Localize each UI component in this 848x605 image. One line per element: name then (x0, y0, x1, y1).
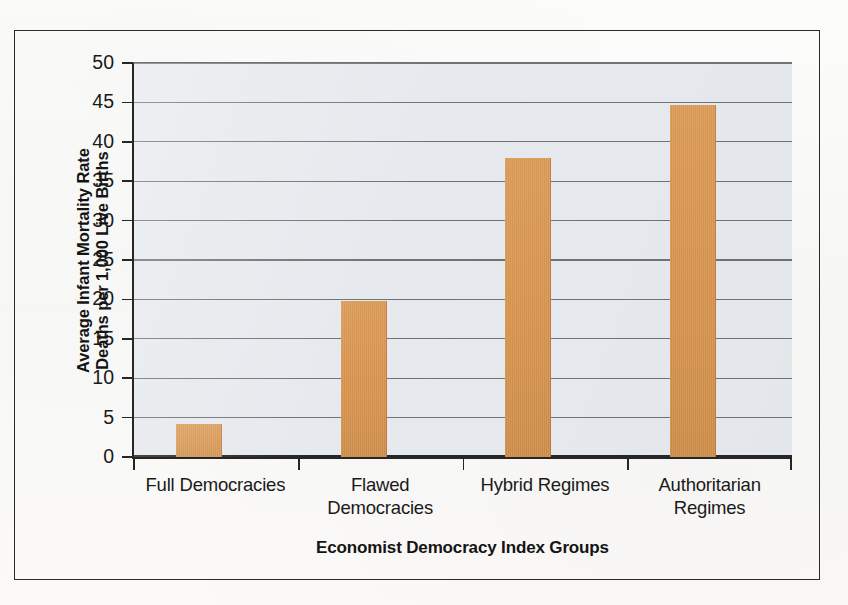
bar-3 (670, 105, 716, 457)
y-tick-50 (122, 62, 133, 64)
x-tick-1 (298, 457, 300, 470)
category-label-1-line-0: Flawed (298, 473, 463, 496)
gridline-50 (133, 62, 792, 63)
plot-area (133, 63, 792, 457)
x-tick-3 (627, 457, 629, 470)
y-tick-25 (122, 259, 133, 261)
y-tick-15 (122, 338, 133, 340)
category-label-0-line-0: Full Democracies (133, 473, 298, 496)
y-axis-title-line-1: Average Infant Mortality Rate (74, 148, 93, 373)
bar-2 (505, 158, 551, 457)
y-tick-5 (122, 417, 133, 419)
category-label-2: Hybrid Regimes (463, 473, 628, 496)
category-label-3: AuthoritarianRegimes (627, 473, 792, 519)
y-tick-40 (122, 141, 133, 143)
bar-0 (176, 424, 222, 457)
category-label-0: Full Democracies (133, 473, 298, 496)
y-axis-line (132, 63, 134, 459)
category-label-2-line-0: Hybrid Regimes (463, 473, 628, 496)
x-tick-4 (790, 457, 792, 470)
category-label-1: FlawedDemocracies (298, 473, 463, 519)
bar-1 (341, 301, 387, 457)
x-tick-0 (133, 457, 135, 470)
y-tick-0 (122, 456, 133, 458)
figure-root: 05101520253035404550 Full DemocraciesFla… (0, 0, 848, 605)
x-axis-title: Economist Democracy Index Groups (133, 538, 792, 558)
y-tick-20 (122, 299, 133, 301)
y-axis-title: Average Infant Mortality Rate Deaths per… (74, 148, 112, 373)
y-tick-35 (122, 180, 133, 182)
category-label-3-line-1: Regimes (627, 496, 792, 519)
x-tick-2 (463, 457, 465, 470)
category-label-1-line-1: Democracies (298, 496, 463, 519)
y-tick-10 (122, 377, 133, 379)
gridline-45 (133, 102, 792, 103)
y-tick-30 (122, 220, 133, 222)
category-label-3-line-0: Authoritarian (627, 473, 792, 496)
y-tick-45 (122, 102, 133, 104)
y-axis-title-line-2: Deaths per 1,000 Live Births (93, 148, 112, 373)
